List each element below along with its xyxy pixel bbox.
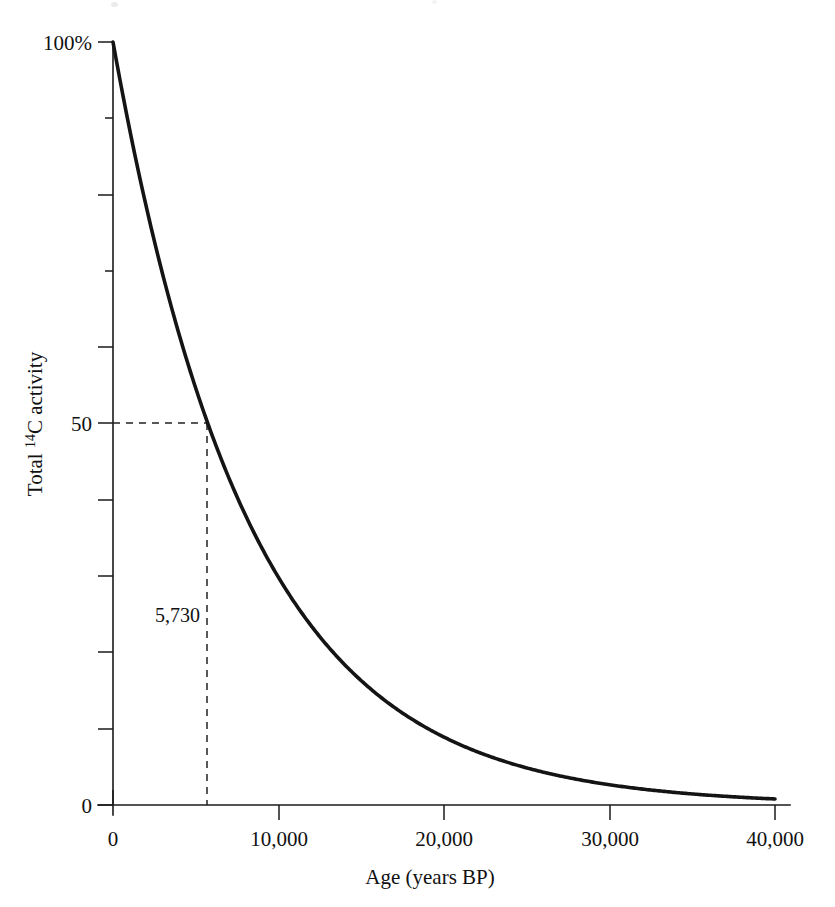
y-axis-title-prefix: Total: [23, 448, 47, 496]
y-tick-label-0: 0: [82, 794, 93, 818]
y-axis-ticks: [98, 42, 113, 805]
decay-curve-path: [113, 42, 775, 799]
half-life-label: 5,730: [155, 604, 200, 626]
y-axis-title-suffix: C activity: [23, 351, 47, 434]
decay-curve-chart: 100% 50 0 0 10,000 20,000 30,000 40,000 …: [0, 0, 835, 907]
x-tick-label-10000: 10,000: [250, 827, 308, 851]
y-axis-title-superscript: 14: [23, 434, 38, 448]
y-tick-label-50: 50: [71, 412, 92, 436]
y-axis-title: Total 14C activity: [23, 351, 47, 496]
x-tick-label-40000: 40,000: [746, 827, 804, 851]
x-tick-label-0: 0: [108, 827, 119, 851]
x-tick-label-20000: 20,000: [415, 827, 473, 851]
x-tick-label-30000: 30,000: [581, 827, 639, 851]
y-tick-label-100: 100%: [43, 31, 92, 55]
x-axis-title: Age (years BP): [365, 865, 494, 889]
figure-container: 100% 50 0 0 10,000 20,000 30,000 40,000 …: [0, 0, 835, 907]
